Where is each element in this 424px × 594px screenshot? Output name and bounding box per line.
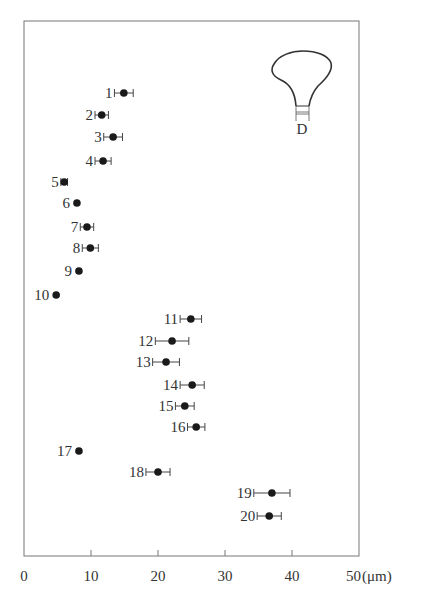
point-label: 15 [158,398,173,414]
marker-dot [268,489,276,497]
point-label: 16 [170,419,186,435]
point-label: 2 [86,107,94,123]
data-point: 18 [129,464,170,480]
x-tick-label: 20 [151,568,166,584]
point-label: 17 [57,443,73,459]
marker-dot [154,468,162,476]
marker-dot [52,291,60,299]
x-tick-label: 30 [218,568,233,584]
data-point: 2 [86,107,109,123]
data-point: 16 [170,419,204,435]
marker-dot [75,267,83,275]
x-tick-label: 10 [84,568,99,584]
point-label: 10 [34,287,49,303]
marker-dot [60,178,68,186]
data-point: 4 [86,153,112,169]
marker-dot [162,358,170,366]
data-point: 5 [51,174,68,190]
x-axis-unit-label: (μm) [362,568,392,585]
data-point: 1 [105,85,133,101]
data-point: 6 [62,195,80,211]
data-point: 12 [138,333,189,349]
data-point: 20 [240,508,281,524]
point-label: 11 [164,311,178,327]
marker-dot [98,111,106,119]
point-label: 8 [73,240,81,256]
point-label: 4 [86,153,94,169]
marker-dot [187,315,195,323]
point-label: 14 [163,377,179,393]
point-label: 20 [240,508,255,524]
data-point: 15 [158,398,194,414]
x-tick-label: 0 [20,568,28,584]
data-point: 17 [57,443,83,459]
point-label: 3 [94,129,102,145]
data-points: 1234567891011121314151617181920 [34,85,290,524]
marker-dot [73,199,81,207]
x-axis: 01020304050 [20,550,361,584]
x-tick-label: 50 [346,568,361,584]
point-label: 5 [51,174,59,190]
data-point: 13 [136,354,180,370]
x-tick-label: 40 [285,568,300,584]
marker-dot [109,133,117,141]
marker-dot [99,157,107,165]
marker-dot [75,447,83,455]
bulb-cell-diagram: D [272,51,331,137]
point-label: 18 [129,464,144,480]
marker-dot [265,512,273,520]
bulb-outline [272,51,331,106]
marker-dot [188,381,196,389]
data-point: 10 [34,287,60,303]
data-point: 14 [163,377,204,393]
plot-frame [24,21,359,556]
scatter-chart: 01020304050 D 12345678910111213141516171… [0,0,424,594]
marker-dot [87,244,95,252]
point-label: 1 [105,85,113,101]
data-point: 19 [237,485,290,501]
point-label: 12 [138,333,153,349]
point-label: 9 [64,263,72,279]
marker-dot [168,337,176,345]
marker-dot [181,402,189,410]
point-label: 19 [237,485,252,501]
marker-dot [120,89,128,97]
inset-label-d: D [297,121,308,137]
data-point: 8 [73,240,99,256]
data-point: 9 [64,263,82,279]
marker-dot [83,223,91,231]
point-label: 6 [62,195,70,211]
marker-dot [192,423,200,431]
point-label: 13 [136,354,151,370]
data-point: 3 [94,129,122,145]
data-point: 11 [164,311,202,327]
point-label: 7 [71,219,79,235]
data-point: 7 [71,219,94,235]
